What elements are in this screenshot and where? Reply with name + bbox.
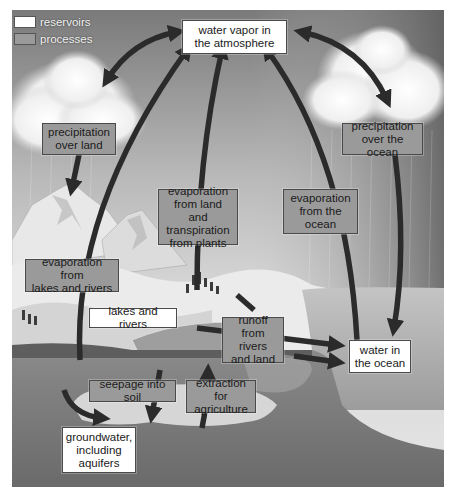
process-precipitation-over-land: precipitation over land — [42, 123, 116, 155]
reservoir-groundwater: groundwater, including aquifers — [62, 427, 136, 473]
label-line: precipitation — [351, 120, 413, 133]
label-line: transpiration — [166, 224, 229, 237]
label-line: evaporation from — [30, 256, 114, 282]
label-line: the atmosphere — [195, 37, 275, 50]
label-line: from plants — [170, 237, 227, 250]
label-line: runoff — [238, 314, 267, 327]
process-extraction: extraction for agriculture — [186, 380, 256, 413]
legend-label: reservoirs — [40, 16, 90, 28]
label-line: agriculture — [194, 403, 248, 416]
label-line: over the ocean — [347, 133, 418, 159]
label-line: aquifers — [79, 457, 120, 470]
label-line: evaporation — [168, 185, 228, 198]
process-seepage: seepage into soil — [89, 380, 176, 402]
process-precipitation-over-ocean: precipitation over the ocean — [342, 123, 423, 155]
legend: reservoirs processes — [14, 13, 92, 47]
reservoir-swatch — [14, 16, 36, 28]
process-swatch — [14, 33, 36, 45]
label-line: seepage into soil — [94, 378, 171, 404]
label-line: from rivers — [227, 327, 279, 353]
label-line: water vapor in — [198, 24, 270, 37]
label-line: the ocean — [355, 357, 406, 370]
label-line: precipitation — [48, 126, 110, 139]
label-line: from the — [299, 205, 341, 218]
label-line: and land — [231, 353, 275, 366]
reservoir-ocean: water in the ocean — [349, 340, 411, 373]
legend-item-processes: processes — [14, 30, 92, 47]
label-line: including — [76, 444, 121, 457]
label-line: water in — [360, 344, 400, 357]
process-evaporation-transpiration: evaporation from land and transpiration … — [158, 189, 238, 245]
process-evaporation-lakes: evaporation from lakes and rivers — [25, 259, 119, 292]
legend-item-reservoirs: reservoirs — [14, 13, 92, 30]
label-line: lakes and rivers — [94, 305, 172, 331]
process-runoff: runoff from rivers and land — [222, 317, 284, 363]
label-line: lakes and rivers — [32, 282, 113, 295]
label-line: groundwater, — [66, 431, 133, 444]
label-line: from land and — [163, 198, 233, 224]
legend-label: processes — [40, 33, 92, 45]
label-line: evaporation — [290, 192, 350, 205]
process-evaporation-ocean: evaporation from the ocean — [283, 189, 358, 234]
reservoir-lakes-and-rivers: lakes and rivers — [89, 308, 177, 328]
label-line: extraction for — [191, 377, 251, 403]
water-cycle-diagram: reservoirs processes water vapor in the … — [12, 10, 444, 487]
label-line: ocean — [305, 218, 336, 231]
label-line: over land — [55, 139, 102, 152]
reservoir-atmosphere: water vapor in the atmosphere — [182, 20, 287, 54]
